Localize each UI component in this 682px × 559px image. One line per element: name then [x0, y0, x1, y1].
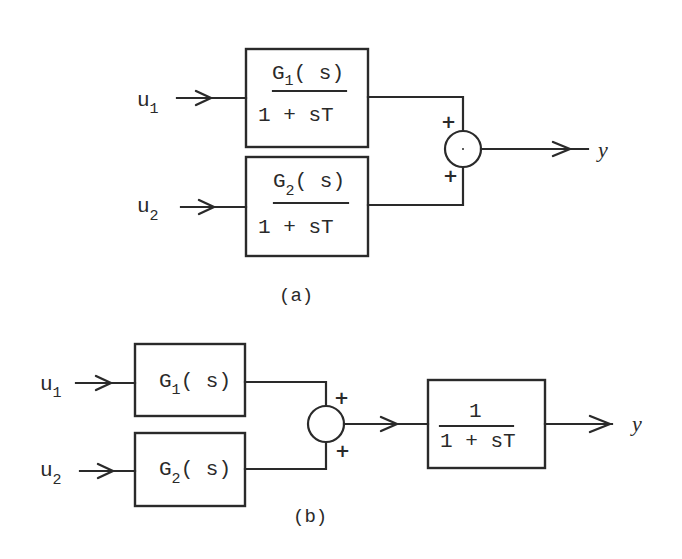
block-g1: G1( s): [135, 344, 245, 416]
diagram-a: u1 u2 G1( s) 1 + sT G2( s) 1 + sT: [137, 49, 608, 307]
block-1-over-1-plus-st: 1 1 + sT: [428, 380, 545, 468]
caption-a: (a): [279, 285, 313, 307]
input-label-u2-a: u2: [137, 195, 159, 225]
junction-sign-bottom: +: [443, 165, 458, 186]
block-label: G1( s): [159, 370, 231, 399]
input-label-u2-b: u2: [40, 459, 62, 489]
junction-sign-bottom: +: [335, 440, 350, 461]
block-diagram-canvas: u1 u2 G1( s) 1 + sT G2( s) 1 + sT: [0, 0, 682, 559]
output-label-y-b: y: [630, 411, 642, 436]
input-label-u1-b: u1: [40, 373, 62, 402]
junction-sign-top: +: [441, 111, 456, 132]
output-label-y-a: y: [596, 137, 608, 162]
block-g2-over-1-plus-st: G2( s) 1 + sT: [246, 157, 368, 256]
input-label-u1-a: u1: [137, 89, 159, 118]
caption-b: (b): [293, 506, 327, 528]
output-b: y: [545, 411, 642, 436]
block-box: [428, 380, 545, 468]
block-g1-over-1-plus-st: G1( s) 1 + sT: [246, 49, 368, 147]
block-g2: G2( s): [135, 433, 245, 506]
summing-junction-circle: [308, 406, 344, 442]
block-numerator: G2( s): [273, 170, 345, 200]
wire-g2-to-junction-b: [245, 442, 326, 469]
summing-junction-a: + +: [441, 111, 481, 186]
diagram-b: u1 u2 G1( s) G2( s) + +: [40, 344, 642, 528]
input-u2-b: u2: [40, 459, 135, 489]
block-numerator: 1: [469, 400, 482, 423]
block-label: G2( s): [159, 458, 231, 488]
wire-g1-to-junction-b: [245, 382, 326, 406]
input-u2-a: u2: [137, 195, 246, 225]
block-denominator: 1 + sT: [258, 216, 334, 239]
output-a: y: [481, 137, 608, 162]
block-denominator: 1 + sT: [440, 430, 516, 453]
input-u1-a: u1: [137, 89, 246, 118]
junction-sign-top: +: [334, 387, 349, 408]
block-numerator: G1( s): [272, 62, 344, 90]
block-denominator: 1 + sT: [258, 104, 334, 127]
input-u1-b: u1: [40, 373, 135, 402]
junction-center-dot: [462, 148, 464, 150]
